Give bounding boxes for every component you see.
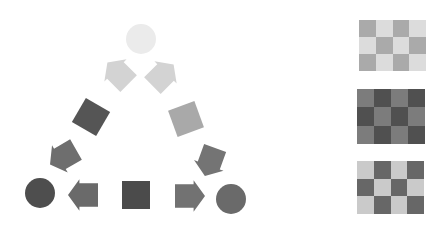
checker-cell [409, 54, 426, 71]
top-circle-circle-icon [126, 24, 156, 54]
shape-sequence [25, 24, 246, 214]
arrow-bottom-right-arrow-icon [175, 180, 205, 211]
arrow-lower-right-arrow-icon [190, 143, 230, 182]
circle-bottom-right-circle-icon [216, 184, 246, 214]
checker-cell [391, 89, 408, 107]
checker-cell [359, 20, 376, 37]
checker-cell [374, 89, 391, 107]
checker-cell [409, 37, 426, 54]
checker-cell [393, 37, 410, 54]
square-mid-right-square-icon [168, 101, 204, 137]
checker-cell [357, 196, 374, 214]
checker-cell [359, 37, 376, 54]
checker-cell [374, 196, 391, 214]
board-dark [357, 89, 425, 144]
checker-cell [408, 126, 425, 144]
checker-cell [407, 196, 424, 214]
checker-cell [374, 126, 391, 144]
arrow-upper-right-arrow-icon [141, 53, 184, 96]
board-mixed [357, 161, 424, 214]
checker-cell [357, 107, 374, 125]
checker-cell [393, 54, 410, 71]
board-light [359, 20, 426, 71]
checker-cell [374, 107, 391, 125]
checker-cell [359, 54, 376, 71]
arrow-lower-left-arrow-icon [42, 136, 84, 178]
circle-bottom-left-circle-icon [25, 178, 55, 208]
square-bottom-square-icon [122, 181, 150, 209]
checker-cell [357, 89, 374, 107]
arrow-bottom-left-arrow-icon [68, 179, 98, 210]
checker-cell [357, 179, 374, 197]
checker-cell [391, 161, 408, 179]
checker-cell [407, 161, 424, 179]
checker-cell [391, 107, 408, 125]
checker-cell [393, 20, 410, 37]
checker-cell [408, 107, 425, 125]
arrow-upper-left-arrow-icon [96, 51, 139, 94]
checker-cell [374, 179, 391, 197]
checker-cell [407, 179, 424, 197]
checker-cell [376, 20, 393, 37]
checker-cell [391, 196, 408, 214]
checker-cell [409, 20, 426, 37]
checker-cell [357, 161, 374, 179]
checker-cell [374, 161, 391, 179]
checker-cell [376, 37, 393, 54]
square-mid-left-square-icon [72, 98, 110, 136]
checker-cell [391, 126, 408, 144]
checker-cell [357, 126, 374, 144]
checker-cell [391, 179, 408, 197]
checker-cell [408, 89, 425, 107]
checker-cell [376, 54, 393, 71]
